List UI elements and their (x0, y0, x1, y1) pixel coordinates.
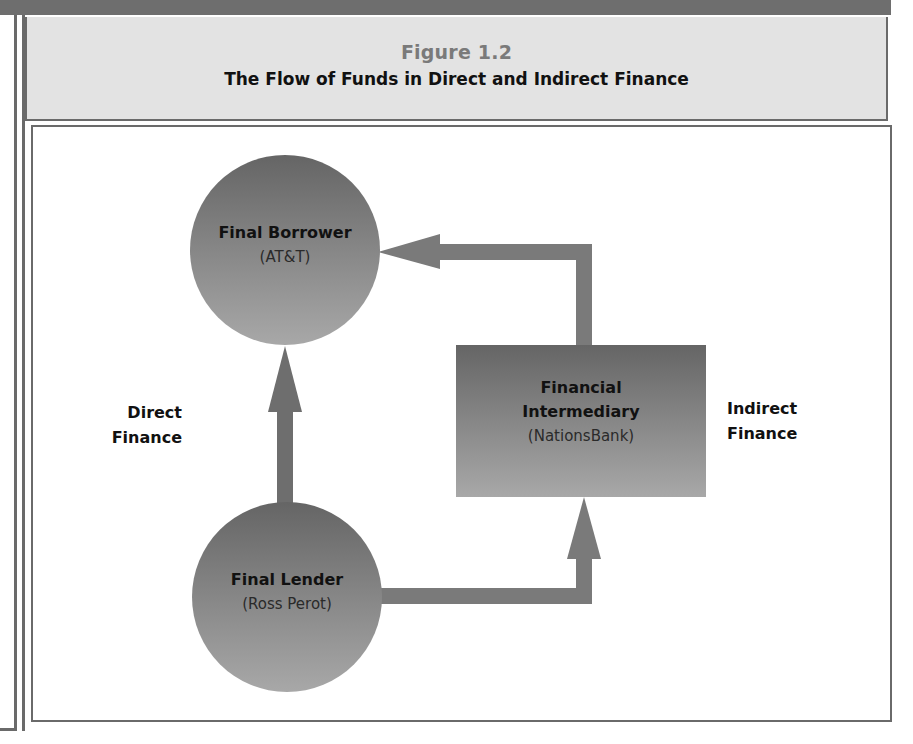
indirect-arrow-to-borrower (378, 234, 592, 346)
flow-diagram (0, 0, 913, 744)
direct-arrow (268, 346, 302, 506)
indirect-arrow-to-intermediary (370, 497, 601, 604)
indirect-finance-label: Indirect Finance (727, 396, 827, 446)
intermediary-label: Financial Intermediary (NationsBank) (456, 376, 706, 448)
direct-finance-label: Direct Finance (90, 400, 182, 450)
lender-label: Final Lender (Ross Perot) (192, 568, 382, 616)
borrower-label: Final Borrower (AT&T) (190, 221, 380, 269)
